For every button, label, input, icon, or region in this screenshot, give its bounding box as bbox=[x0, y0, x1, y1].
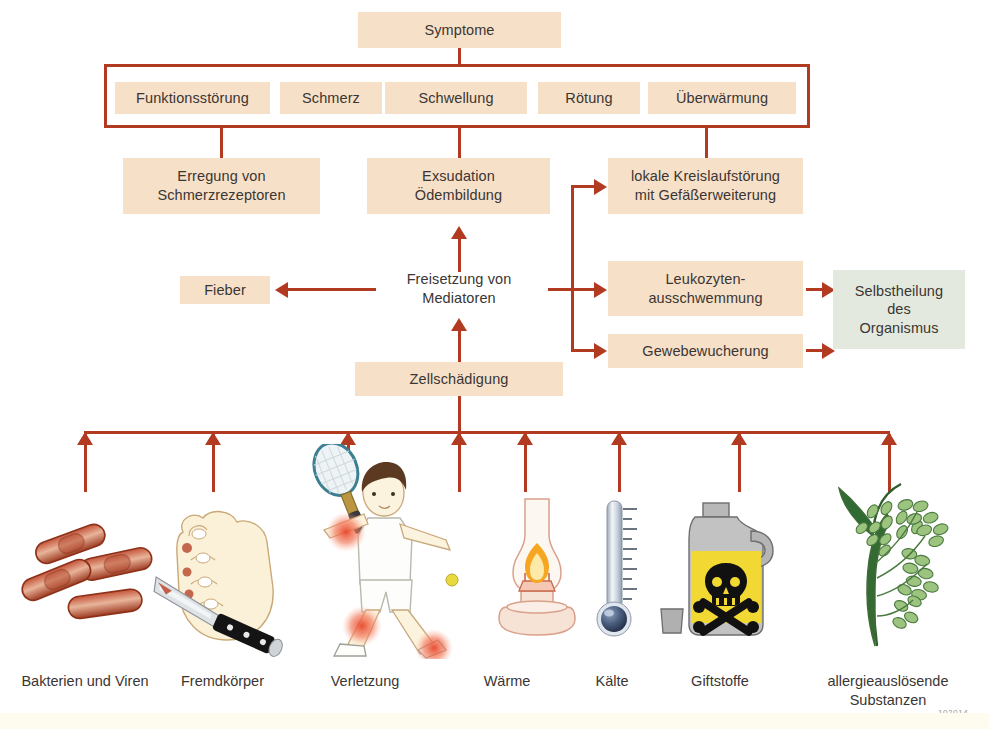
caption-verletzung: Verletzung bbox=[295, 672, 435, 691]
arrowhead-leukozyten bbox=[594, 282, 607, 298]
arrowhead-cause-1 bbox=[77, 432, 93, 445]
tennis-player-icon bbox=[300, 444, 465, 659]
box-freisetzung-mediatoren: Freisetzung von Mediatoren bbox=[375, 267, 543, 311]
box-ueberwaermung: Überwärmung bbox=[648, 82, 796, 114]
arrowhead-gewebewucherung bbox=[594, 343, 607, 359]
poison-jug-icon bbox=[655, 485, 790, 645]
arrowhead-exsudation bbox=[451, 226, 467, 239]
bacteria-icon bbox=[12, 505, 162, 645]
box-funktionsstoerung: Funktionsstörung bbox=[115, 82, 270, 114]
arrowhead-mediatoren bbox=[451, 318, 467, 331]
connector-bar-to-zellschaedigung bbox=[458, 396, 461, 433]
inflammation-diagram: Symptome Funktionsstörung Schmerz Schwel… bbox=[0, 0, 989, 729]
connector-right-trunk bbox=[571, 186, 574, 352]
caption-giftstoffe: Giftstoffe bbox=[655, 672, 785, 691]
grass-pollen-icon bbox=[815, 470, 975, 650]
footer-strip bbox=[0, 713, 989, 729]
arrowhead-cause-5 bbox=[517, 432, 533, 445]
box-gewebewucherung: Gewebewucherung bbox=[608, 334, 803, 368]
arrowhead-cause-2 bbox=[205, 432, 221, 445]
connector-zellschaedigung-to-mediatoren bbox=[458, 330, 461, 362]
arrowhead-cause-7 bbox=[731, 432, 747, 445]
connector-descender-left bbox=[220, 125, 223, 158]
connector-symptom-bracket-left bbox=[104, 64, 107, 128]
connector-symptom-bracket-right bbox=[807, 64, 810, 128]
box-lokale-kreislaufstoerung: lokale Kreislaufstörung mit Gefäßerweite… bbox=[608, 158, 803, 214]
hand-knife-icon bbox=[145, 492, 300, 657]
box-selbstheilung-organismus: Selbstheilung des Organismus bbox=[833, 270, 965, 349]
box-symptome: Symptome bbox=[358, 12, 561, 48]
thermometer-icon bbox=[582, 495, 654, 645]
box-leukozytenausschwemmung: Leukozyten- ausschwemmung bbox=[608, 261, 803, 316]
arrowhead-cause-6 bbox=[611, 432, 627, 445]
box-roetung: Rötung bbox=[538, 82, 640, 114]
box-fieber: Fieber bbox=[180, 276, 270, 304]
connector-symptom-bracket-top bbox=[104, 64, 810, 67]
caption-kaelte: Kälte bbox=[560, 672, 664, 691]
arrowhead-fieber bbox=[275, 282, 288, 298]
oil-lamp-icon bbox=[487, 495, 587, 645]
arrowhead-cause-8 bbox=[881, 432, 897, 445]
connector-descender-middle bbox=[458, 125, 461, 158]
connector-descender-right bbox=[705, 125, 708, 158]
box-exsudation-oedembildung: Exsudation Ödembildung bbox=[367, 158, 550, 214]
box-schmerz: Schmerz bbox=[280, 82, 382, 114]
box-schwellung: Schwellung bbox=[385, 82, 527, 114]
caption-bakterien-viren: Bakterien und Viren bbox=[0, 672, 170, 691]
arrowhead-kreislaufstoerung bbox=[594, 179, 607, 195]
caption-fremdkoerper: Fremdkörper bbox=[150, 672, 295, 691]
box-erregung-schmerzrezeptoren: Erregung von Schmerzrezeptoren bbox=[123, 158, 320, 214]
caption-allergieausloesende-substanzen: allergieauslösende Substanzen bbox=[793, 672, 983, 710]
connector-mediatoren-to-fieber bbox=[288, 288, 376, 291]
box-zellschaedigung: Zellschädigung bbox=[355, 362, 563, 396]
caption-waerme: Wärme bbox=[452, 672, 562, 691]
